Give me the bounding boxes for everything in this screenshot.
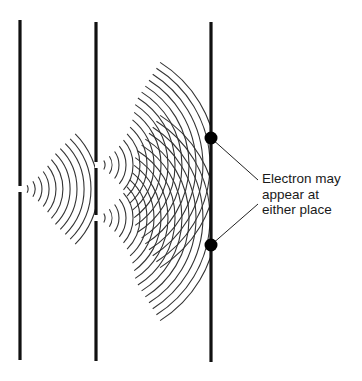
annotation-line-2: appear at [262,187,341,203]
electron-detection-dot [205,239,218,252]
annotation-line-3: either place [262,202,341,218]
wavefront-arc [124,140,134,190]
leader-line [211,138,258,180]
wavefront-arc [119,199,126,237]
wavefront-arc [104,161,105,170]
wavefront-arc [109,209,112,226]
wavefront-arc [124,193,134,243]
wavefront-arc [134,165,161,270]
wavefront-arc [119,146,126,184]
wavefront-arc [109,156,112,173]
leader-line [211,204,258,245]
wavefront-arc [43,172,49,207]
wavefront-arc [134,112,161,217]
wavefronts-from-source-slit [27,134,98,244]
wavefront-arc [115,205,119,232]
leader-lines [211,138,258,245]
wavefront-arc [138,98,175,232]
wavefront-arc [27,185,28,193]
wavefront-arc [33,181,35,196]
wavefront-arc [38,177,42,202]
wavefront-arc [104,214,105,223]
electron-detection-dot [205,132,218,145]
annotation-label: Electron may appear at either place [262,171,341,218]
annotation-line-1: Electron may [262,171,341,187]
wavefront-arc [51,160,63,219]
wavefronts-from-double-slit [104,62,217,320]
wavefront-arc [142,92,182,238]
wavefront-arc [142,145,182,291]
wavefront-arc [138,151,175,285]
wavefront-arc [115,152,119,179]
